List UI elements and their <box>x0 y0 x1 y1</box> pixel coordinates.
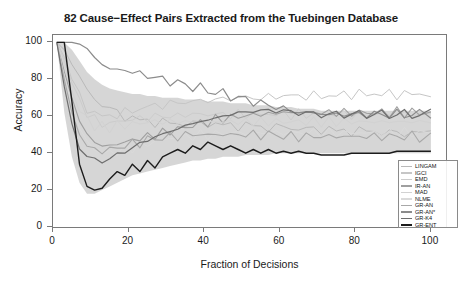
legend-swatch-line-icon <box>401 179 412 181</box>
legend-swatch-line-icon <box>401 192 412 194</box>
x-tick-label: 80 <box>337 235 371 246</box>
x-tick-label: 20 <box>111 235 145 246</box>
legend-label: MAD <box>415 189 427 195</box>
legend-label: NLME <box>415 196 431 202</box>
chart-legend: LINGAMIGCIEMDIR-ANMADNLMEGR-ANGR-AN*GR-K… <box>398 160 458 228</box>
legend-swatch-line-icon <box>401 172 412 174</box>
x-tick-label: 40 <box>186 235 220 246</box>
legend-label: EMD <box>415 176 427 182</box>
legend-label: GR-K4 <box>415 215 432 221</box>
legend-item[interactable]: GR-ENT <box>401 222 455 229</box>
chart-figure: 82 Cause−Effect Pairs Extracted from the… <box>0 0 462 283</box>
y-tick-label: 40 <box>12 146 42 157</box>
legend-swatch-line-icon <box>401 198 412 200</box>
x-tick-label: 100 <box>413 235 447 246</box>
y-tick-label: 20 <box>12 183 42 194</box>
y-tick-label: 0 <box>12 220 42 231</box>
y-tick-label: 60 <box>12 109 42 120</box>
plot-svg <box>53 35 446 227</box>
legend-label: GR-AN <box>415 202 433 208</box>
x-axis-label: Fraction of Decisions <box>52 258 447 270</box>
legend-label: IR-AN <box>415 183 430 189</box>
legend-swatch-line-icon <box>401 218 412 220</box>
x-tick-label: 0 <box>35 235 69 246</box>
x-tick-label: 60 <box>262 235 296 246</box>
chart-title: 82 Cause−Effect Pairs Extracted from the… <box>0 12 462 24</box>
legend-label: IGCI <box>415 170 427 176</box>
y-tick-label: 80 <box>12 72 42 83</box>
legend-swatch-line-icon <box>401 205 412 207</box>
legend-label: GR-ENT <box>415 222 436 228</box>
legend-swatch-line-icon <box>401 166 412 168</box>
legend-label: LINGAM <box>415 163 436 169</box>
legend-swatch-line-icon <box>401 185 412 187</box>
plot-area <box>52 34 447 228</box>
legend-swatch-line-icon <box>401 224 412 226</box>
legend-label: GR-AN* <box>415 209 435 215</box>
legend-swatch-line-icon <box>401 211 412 213</box>
confidence-band <box>57 42 431 193</box>
y-tick-label: 100 <box>12 35 42 46</box>
